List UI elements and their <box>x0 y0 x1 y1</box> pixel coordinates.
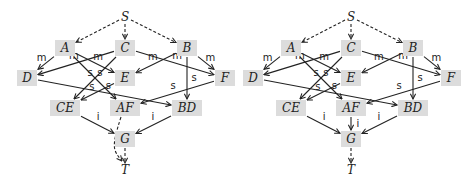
node-f: F <box>441 70 461 86</box>
edge-label: s <box>170 80 175 91</box>
diagram-right: mmsmmsmmssssiiiSACBDEFCEAFBDGT <box>243 10 461 177</box>
edge-label: m <box>37 52 47 63</box>
edge-label: i <box>97 111 100 122</box>
edge-s-to-b <box>357 20 402 43</box>
edge-label: m <box>431 52 441 63</box>
edge-label: s <box>417 72 422 83</box>
node-ce: CE <box>50 100 80 116</box>
edge-label: m <box>374 51 384 62</box>
edge-label: s <box>315 81 320 92</box>
node-label: D <box>21 71 32 85</box>
node-label: AF <box>342 101 361 115</box>
node-label: C <box>346 41 355 55</box>
node-b: B <box>403 40 423 56</box>
edge-label: s <box>313 67 318 78</box>
node-label: BD <box>177 101 197 115</box>
node-label: S <box>347 10 355 24</box>
edge-label: m <box>205 52 215 63</box>
edge-label: s <box>396 80 401 91</box>
node-label: C <box>120 41 129 55</box>
node-t: T <box>347 163 356 177</box>
node-label: B <box>182 41 192 55</box>
edge-label: m <box>148 51 158 62</box>
node-label: A <box>286 41 296 55</box>
node-c: C <box>341 40 361 56</box>
node-label: B <box>408 41 418 55</box>
node-label: T <box>347 163 356 177</box>
node-label: CE <box>56 101 74 115</box>
edge-f-to-af <box>367 81 440 103</box>
node-label: T <box>121 163 130 177</box>
node-d: D <box>243 70 263 86</box>
edge-label: i <box>377 111 380 122</box>
node-s: S <box>347 10 355 24</box>
node-label: E <box>346 71 356 85</box>
edge-s-to-a <box>76 20 119 42</box>
edge-label: m <box>263 52 273 63</box>
node-bd: BD <box>398 100 428 116</box>
node-af: AF <box>110 100 140 116</box>
node-label: BD <box>403 101 423 115</box>
node-label: G <box>346 132 356 146</box>
node-af: AF <box>336 100 366 116</box>
node-label: F <box>446 71 456 85</box>
edge-s-to-b <box>131 20 176 43</box>
node-e: E <box>115 70 135 86</box>
node-label: CE <box>282 101 300 115</box>
node-label: D <box>247 71 258 85</box>
edge-label: i <box>323 111 326 122</box>
node-label: F <box>220 71 230 85</box>
node-a: A <box>281 40 301 56</box>
edge-label: s <box>191 72 196 83</box>
edge-s-to-a <box>302 20 345 42</box>
node-f: F <box>215 70 235 86</box>
node-label: E <box>120 71 130 85</box>
edge-label: s <box>87 67 92 78</box>
node-c: C <box>115 40 135 56</box>
edge-label: i <box>357 118 360 129</box>
edge-f-to-af <box>141 81 214 103</box>
node-e: E <box>341 70 361 86</box>
node-d: D <box>17 70 37 86</box>
node-label: S <box>121 10 129 24</box>
node-s: S <box>121 10 129 24</box>
node-label: AF <box>116 101 135 115</box>
node-g: G <box>341 131 361 147</box>
diagram-left: mmsmmsmmssssiiSACBDEFCEAFBDGT <box>17 10 235 177</box>
node-label: A <box>60 41 70 55</box>
node-g: G <box>115 131 135 147</box>
edge-label: i <box>151 111 154 122</box>
node-label: G <box>120 132 130 146</box>
node-t: T <box>121 163 130 177</box>
node-bd: BD <box>172 100 202 116</box>
node-b: B <box>177 40 197 56</box>
edge-label: s <box>89 81 94 92</box>
node-a: A <box>55 40 75 56</box>
state-diagrams-canvas: mmsmmsmmssssiiSACBDEFCEAFBDGT mmsmmsmmss… <box>0 0 475 186</box>
node-ce: CE <box>276 100 306 116</box>
